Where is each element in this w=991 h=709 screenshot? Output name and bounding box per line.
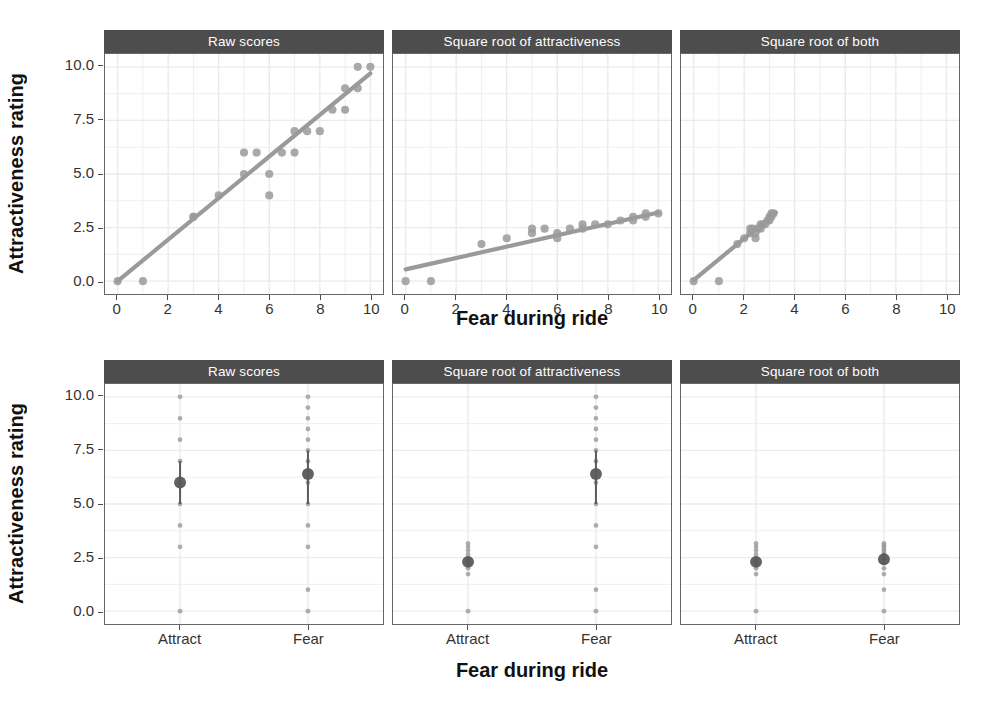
x-tick-panel1-2: 2 — [148, 300, 188, 317]
category-tickmark-panel2-attract — [467, 625, 468, 630]
strip-label: Square root of attractiveness — [444, 364, 621, 379]
strip-label: Raw scores — [208, 364, 280, 379]
y-tick-bottom-5.0: 5.0 — [36, 494, 94, 511]
y-tick-top-7.5: 7.5 — [36, 110, 94, 127]
y-axis-title-top: Attractiveness rating — [0, 52, 32, 295]
y-tickmark-bottom-2.5 — [98, 558, 103, 559]
x-axis-title-bottom: Fear during ride — [392, 659, 672, 682]
category-tick-panel3-attract: Attract — [711, 630, 801, 647]
x-tickmark-panel1-0 — [116, 295, 117, 300]
x-tickmark-panel3-2 — [743, 295, 744, 300]
category-tickmark-panel1-attract — [179, 625, 180, 630]
x-tickmark-panel1-2 — [167, 295, 168, 300]
x-tickmark-panel3-4 — [794, 295, 795, 300]
x-tickmark-panel1-10 — [371, 295, 372, 300]
y-axis-title-bottom: Attractiveness rating — [0, 382, 32, 625]
x-tickmark-panel3-10 — [947, 295, 948, 300]
x-tickmark-panel1-6 — [269, 295, 270, 300]
strip-header-top-sqrt-attract: Square root of attractiveness — [392, 30, 672, 53]
y-tick-top-0.0: 0.0 — [36, 272, 94, 289]
x-tickmark-panel2-8 — [608, 295, 609, 300]
figure-panel-grid: Attractiveness rating Raw scores Square … — [0, 0, 991, 709]
x-tickmark-panel1-8 — [320, 295, 321, 300]
category-tick-panel1-fear: Fear — [263, 630, 353, 647]
x-axis-title-top: Fear during ride — [392, 307, 672, 330]
category-tickmark-panel1-fear — [308, 625, 309, 630]
strip-label: Square root of both — [761, 364, 879, 379]
y-tickmark-bottom-0.0 — [98, 612, 103, 613]
strip-header-top-raw: Raw scores — [104, 30, 384, 53]
y-tickmark-top-0.0 — [98, 282, 103, 283]
x-tick-panel1-8: 8 — [300, 300, 340, 317]
strip-header-bottom-raw: Raw scores — [104, 360, 384, 383]
y-tick-bottom-2.5: 2.5 — [36, 548, 94, 565]
strip-label: Raw scores — [208, 34, 280, 49]
x-tick-panel3-8: 8 — [876, 300, 916, 317]
strip-label: Square root of attractiveness — [444, 34, 621, 49]
y-tick-top-10.0: 10.0 — [36, 56, 94, 73]
x-tickmark-panel2-4 — [506, 295, 507, 300]
y-tick-top-5.0: 5.0 — [36, 164, 94, 181]
category-tick-panel3-fear: Fear — [839, 630, 929, 647]
panel-bottom-sqrt-both — [680, 383, 960, 625]
category-tick-panel2-fear: Fear — [551, 630, 641, 647]
x-tickmark-panel3-0 — [692, 295, 693, 300]
y-tick-bottom-0.0: 0.0 — [36, 602, 94, 619]
x-tick-panel3-10: 10 — [927, 300, 967, 317]
y-tickmark-top-10.0 — [98, 65, 103, 66]
strip-header-bottom-sqrt-attract: Square root of attractiveness — [392, 360, 672, 383]
x-tick-panel3-0: 0 — [673, 300, 713, 317]
x-tickmark-panel2-2 — [455, 295, 456, 300]
y-tick-bottom-7.5: 7.5 — [36, 440, 94, 457]
y-tick-top-2.5: 2.5 — [36, 218, 94, 235]
category-tickmark-panel3-attract — [755, 625, 756, 630]
x-tickmark-panel2-6 — [557, 295, 558, 300]
x-tick-panel3-6: 6 — [825, 300, 865, 317]
x-tick-panel1-6: 6 — [249, 300, 289, 317]
category-tickmark-panel3-fear — [884, 625, 885, 630]
x-tickmark-panel1-4 — [218, 295, 219, 300]
panel-bottom-sqrt-attract — [392, 383, 672, 625]
y-tickmark-top-5.0 — [98, 174, 103, 175]
category-tickmark-panel2-fear — [596, 625, 597, 630]
y-tickmark-bottom-7.5 — [98, 449, 103, 450]
panel-top-sqrt-both — [680, 53, 960, 295]
y-tickmark-bottom-10.0 — [98, 395, 103, 396]
strip-label: Square root of both — [761, 34, 879, 49]
x-tick-panel3-2: 2 — [724, 300, 764, 317]
x-tickmark-panel2-10 — [659, 295, 660, 300]
x-tickmark-panel2-0 — [404, 295, 405, 300]
panel-top-sqrt-attract — [392, 53, 672, 295]
x-tickmark-panel3-6 — [845, 295, 846, 300]
y-tickmark-top-2.5 — [98, 228, 103, 229]
x-tickmark-panel3-8 — [896, 295, 897, 300]
y-tickmark-top-7.5 — [98, 119, 103, 120]
category-tick-panel2-attract: Attract — [423, 630, 513, 647]
x-tick-panel3-4: 4 — [775, 300, 815, 317]
panel-bottom-raw — [104, 383, 384, 625]
strip-header-top-sqrt-both: Square root of both — [680, 30, 960, 53]
y-tickmark-bottom-5.0 — [98, 504, 103, 505]
strip-header-bottom-sqrt-both: Square root of both — [680, 360, 960, 383]
y-tick-bottom-10.0: 10.0 — [36, 386, 94, 403]
category-tick-panel1-attract: Attract — [135, 630, 225, 647]
panel-top-raw — [104, 53, 384, 295]
x-tick-panel1-0: 0 — [97, 300, 137, 317]
x-tick-panel1-4: 4 — [199, 300, 239, 317]
